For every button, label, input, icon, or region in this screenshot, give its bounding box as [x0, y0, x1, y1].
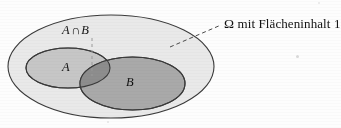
omega-caption: Ω mit Flächeninhalt 1 — [224, 17, 340, 31]
omega-caption-text: mit Flächeninhalt 1 — [234, 16, 340, 31]
intersection-label-set-a: A — [62, 23, 70, 37]
intersection-label-set-b: B — [81, 23, 89, 37]
set-b-label: B — [126, 76, 134, 89]
intersection-operator-icon: ∩ — [70, 23, 81, 37]
venn-diagram-figure: A∩B A B Ω mit Flächeninhalt 1 — [0, 0, 341, 128]
intersection-label: A∩B — [62, 24, 89, 37]
set-a-label: A — [62, 61, 70, 74]
omega-symbol: Ω — [224, 16, 234, 31]
